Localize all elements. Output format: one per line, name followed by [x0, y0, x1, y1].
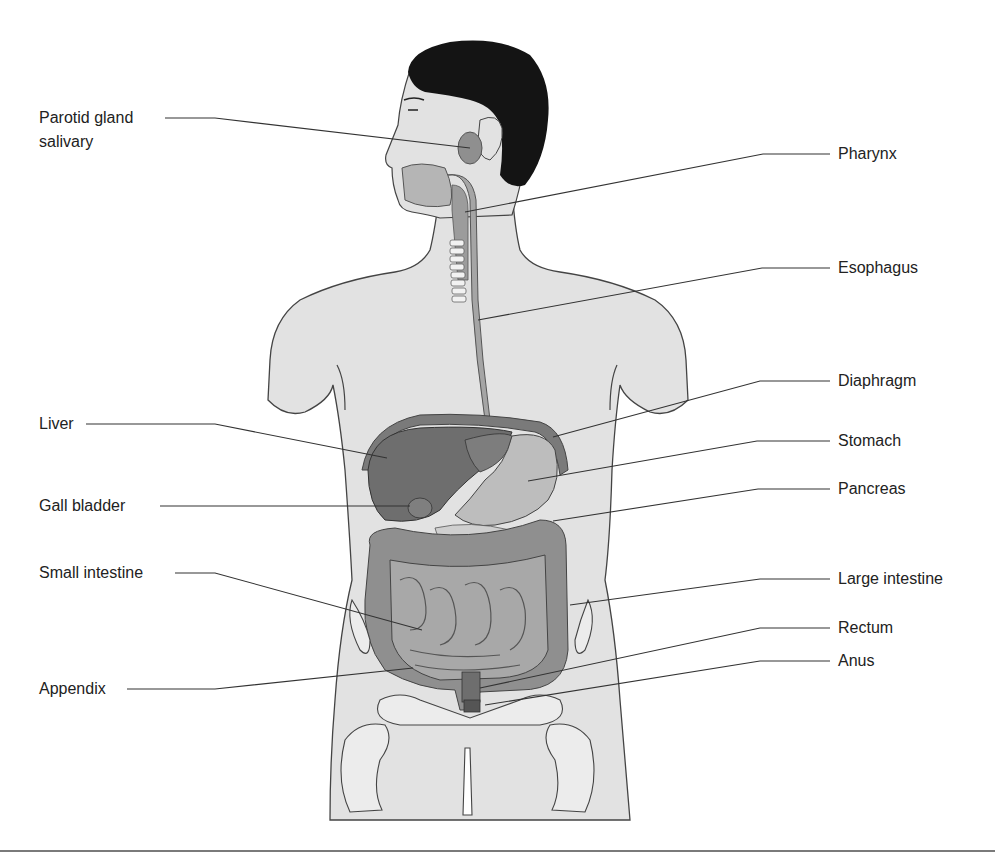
label-pancreas: Pancreas [838, 479, 906, 499]
label-appendix: Appendix [39, 679, 106, 699]
label-liver: Liver [39, 414, 74, 434]
label-diaphragm: Diaphragm [838, 371, 916, 391]
label-rectum: Rectum [838, 618, 893, 638]
label-esophagus: Esophagus [838, 258, 918, 278]
small-intestine [390, 555, 548, 680]
oral-cavity [402, 164, 452, 207]
digestive-system-illustration [0, 0, 995, 858]
label-anus: Anus [838, 651, 874, 671]
head [386, 41, 549, 218]
anus [464, 700, 480, 712]
label-large-intestine: Large intestine [838, 569, 943, 589]
label-gall-bladder: Gall bladder [39, 496, 125, 516]
rectum [462, 672, 480, 702]
label-stomach: Stomach [838, 431, 901, 451]
label-pharynx: Pharynx [838, 144, 897, 164]
label-parotid-gland: Parotid gland salivary [39, 108, 133, 152]
gall-bladder [408, 498, 432, 518]
label-small-intestine: Small intestine [39, 563, 143, 583]
bottom-divider [0, 850, 995, 852]
